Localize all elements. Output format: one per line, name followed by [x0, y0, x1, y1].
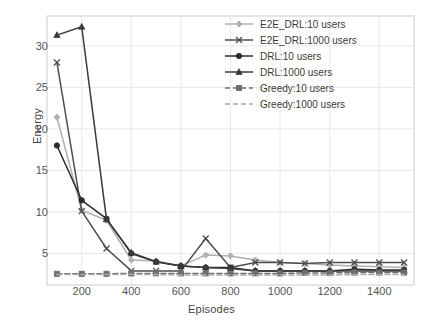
x-tick-1400: 1400 [349, 285, 409, 297]
legend-label-2: DRL:10 users [260, 51, 321, 62]
legend-swatch-square-icon [224, 81, 254, 95]
legend-item-2: DRL:10 users [224, 48, 357, 64]
series-marker-4 [104, 271, 109, 276]
legend-swatch-circle-icon [224, 49, 254, 63]
y-tick-30: 30 [24, 40, 48, 52]
legend-item-4: Greedy:10 users [224, 80, 357, 96]
series-marker-4 [79, 271, 84, 276]
y-tick-15: 15 [24, 164, 48, 176]
series-marker-4 [129, 271, 134, 276]
y-tick-20: 20 [24, 123, 48, 135]
legend-item-5: Greedy:1000 users [224, 96, 357, 112]
chart-legend: E2E_DRL:10 usersE2E_DRL:1000 usersDRL:10… [224, 16, 357, 112]
x-axis-tick-labels: 200400600800100012001400 [0, 285, 423, 301]
legend-swatch-diamond-icon [224, 17, 254, 31]
legend-item-1: E2E_DRL:1000 users [224, 32, 357, 48]
y-tick-10: 10 [24, 206, 48, 218]
legend-label-4: Greedy:10 users [260, 83, 334, 94]
y-tick-25: 25 [24, 81, 48, 93]
chart-figure: Energy Episodes 51015202530 200400600800… [0, 0, 423, 328]
legend-swatch-x-icon [224, 33, 254, 47]
legend-label-1: E2E_DRL:1000 users [260, 35, 357, 46]
series-marker-4 [54, 271, 59, 276]
legend-swatch-none-icon [224, 97, 254, 111]
legend-label-0: E2E_DRL:10 users [260, 19, 346, 30]
legend-item-3: DRL:1000 users [224, 64, 357, 80]
y-axis-tick-labels: 51015202530 [18, 0, 48, 328]
legend-label-3: DRL:1000 users [260, 67, 332, 78]
legend-swatch-triangle-icon [224, 65, 254, 79]
series-marker-2 [79, 198, 84, 203]
x-axis-label: Episodes [0, 303, 423, 315]
series-marker-2 [54, 143, 59, 148]
legend-label-5: Greedy:1000 users [260, 99, 345, 110]
y-tick-5: 5 [24, 247, 48, 259]
chart-plot-area [0, 0, 423, 328]
legend-item-0: E2E_DRL:10 users [224, 16, 357, 32]
